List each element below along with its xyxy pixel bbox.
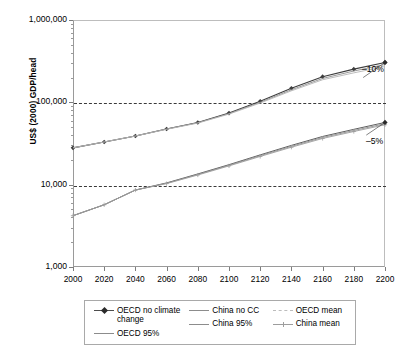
y-tick-label: 1,000 bbox=[5, 262, 67, 271]
x-tick-mark bbox=[229, 267, 230, 271]
legend-swatch-diamond-icon bbox=[93, 306, 115, 315]
legend-item-label: OECD no climate change bbox=[117, 306, 188, 325]
x-tick-mark bbox=[167, 267, 168, 271]
x-tick-mark bbox=[73, 267, 74, 271]
annotation-leader-lines bbox=[73, 20, 385, 267]
legend-item[interactable]: OECD 95% bbox=[93, 329, 188, 338]
x-tick-mark bbox=[104, 267, 105, 271]
legend-column: China no CCChina 95% bbox=[188, 306, 271, 344]
legend-swatch-none-icon bbox=[188, 319, 210, 328]
legend-column: OECD no climate changeOECD 95% bbox=[85, 306, 188, 344]
legend-swatch-none-icon bbox=[93, 329, 115, 338]
legend-item-label: China no CC bbox=[212, 306, 271, 315]
legend-marker-plus-icon bbox=[283, 322, 289, 327]
legend-item[interactable]: OECD mean bbox=[272, 306, 355, 315]
legend: OECD no climate changeOECD 95%China no C… bbox=[84, 300, 356, 345]
legend-swatch-dash-icon bbox=[272, 306, 294, 315]
legend-item-label: China mean bbox=[296, 319, 355, 328]
legend-item[interactable]: OECD no climate change bbox=[93, 306, 188, 325]
y-tick-label: 10,000 bbox=[5, 180, 67, 189]
legend-column: OECD meanChina mean bbox=[272, 306, 355, 344]
annotation-minus-5-percent: –5% bbox=[366, 136, 383, 146]
x-tick-mark bbox=[385, 267, 386, 271]
legend-item[interactable]: China no CC bbox=[188, 306, 271, 315]
leader-minus-5 bbox=[366, 122, 385, 135]
legend-item-label: OECD mean bbox=[296, 306, 355, 315]
legend-item[interactable]: China 95% bbox=[188, 319, 271, 328]
legend-marker-diamond-icon bbox=[101, 307, 108, 314]
annotation-minus-10-percent: –10% bbox=[362, 64, 384, 74]
x-tick-label: 2200 bbox=[365, 274, 405, 284]
legend-item[interactable]: China mean bbox=[272, 319, 355, 328]
legend-swatch-none-icon bbox=[188, 306, 210, 315]
legend-item-label: OECD 95% bbox=[117, 329, 188, 338]
chart-figure: US$ (2000) GDP/head 1,00010,000100,0001,… bbox=[0, 0, 415, 355]
x-tick-mark bbox=[291, 267, 292, 271]
x-tick-mark bbox=[260, 267, 261, 271]
x-tick-mark bbox=[198, 267, 199, 271]
legend-item-label: China 95% bbox=[212, 319, 271, 328]
legend-swatch-plus-icon bbox=[272, 319, 294, 328]
x-tick-mark bbox=[135, 267, 136, 271]
y-tick-label: 1,000,000 bbox=[5, 15, 67, 24]
x-tick-mark bbox=[354, 267, 355, 271]
x-tick-mark bbox=[323, 267, 324, 271]
y-tick-label: 100,000 bbox=[5, 97, 67, 106]
